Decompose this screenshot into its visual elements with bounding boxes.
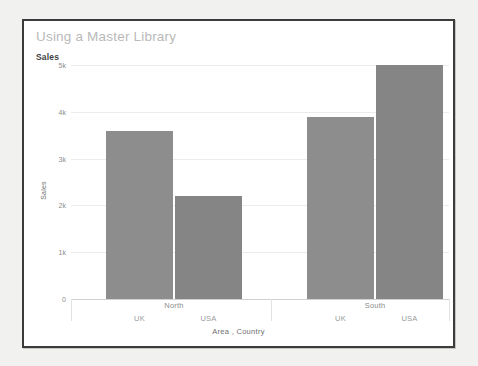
x-axis-group-separator — [449, 299, 450, 321]
y-axis-tick-label: 5k — [24, 62, 66, 69]
bar[interactable] — [106, 131, 173, 299]
y-axis-tick-label: 4k — [24, 108, 66, 115]
y-axis-tick-label: 2k — [24, 202, 66, 209]
y-axis-tick-label: 0 — [24, 296, 66, 303]
x-axis-group-label: South — [365, 301, 386, 310]
x-axis-group-label: North — [164, 301, 183, 310]
y-axis-tick-label: 1k — [24, 249, 66, 256]
bar[interactable] — [175, 196, 242, 299]
x-axis-category-label: USA — [401, 314, 417, 323]
x-axis-group-separator — [271, 299, 272, 321]
app-root: Using a Master Library Sales Sales Area … — [0, 0, 478, 366]
plot-area: Sales Area , Country 01k2k3k4k5kUKUSAUKU… — [24, 21, 453, 346]
bar[interactable] — [307, 117, 374, 299]
x-axis-category-label: USA — [200, 314, 216, 323]
x-axis-group-separator — [71, 299, 72, 321]
x-axis-category-label: UK — [335, 314, 346, 323]
x-axis-line — [71, 299, 449, 300]
chart-card: Using a Master Library Sales Sales Area … — [22, 19, 455, 348]
x-axis-title: Area , Country — [24, 327, 453, 336]
y-axis-title: Sales — [40, 161, 47, 221]
x-axis-category-label: UK — [134, 314, 145, 323]
bar[interactable] — [376, 65, 443, 299]
y-axis-tick-label: 3k — [24, 155, 66, 162]
